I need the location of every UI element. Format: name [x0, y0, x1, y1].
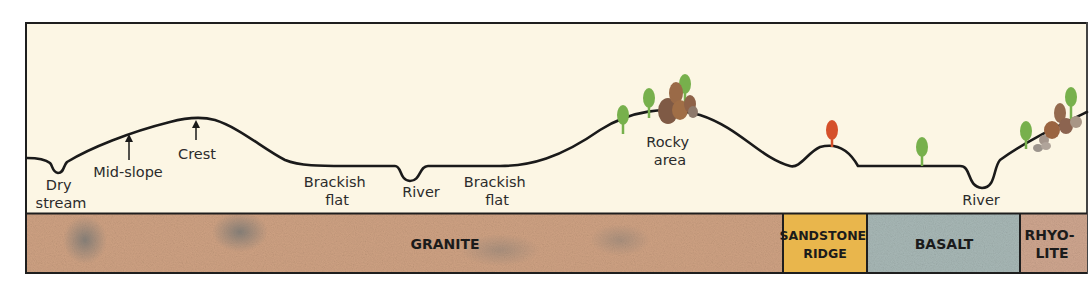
label-river-b: River [962, 192, 1000, 208]
sandstone-ridge-bedrock [783, 214, 867, 273]
label-crest: Crest [178, 146, 216, 162]
granite-bedrock [27, 214, 783, 273]
label-granite: GRANITE [410, 236, 479, 252]
label-river-a: River [402, 184, 440, 200]
bedrock-layer: GRANITE SANDSTONE RIDGE BASALT RHYO- LIT… [26, 212, 1087, 273]
label-basalt: BASALT [915, 236, 974, 252]
rhyolite-bedrock [1020, 214, 1087, 273]
landscape-cross-section-diagram: Dry stream Mid-slope Crest Brackish flat… [0, 0, 1091, 299]
label-mid-slope: Mid-slope [93, 164, 163, 180]
